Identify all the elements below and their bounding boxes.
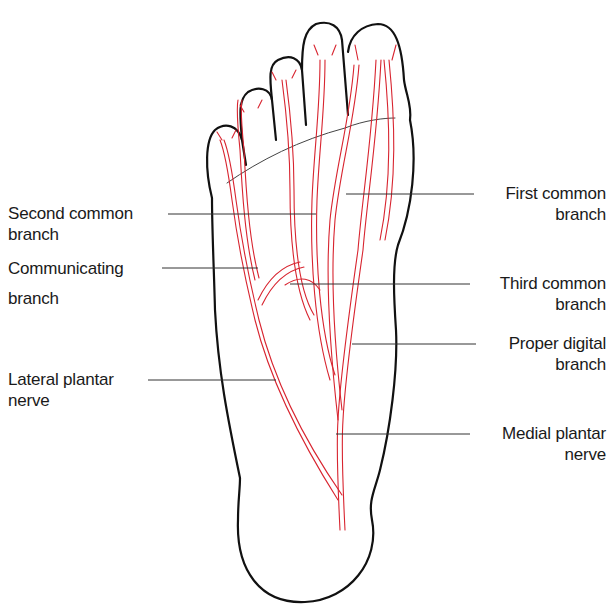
label-line: First common bbox=[505, 183, 606, 204]
label-line: branch bbox=[8, 224, 133, 245]
label-line: Second common bbox=[8, 203, 133, 224]
label-first-common-branch: First common branch bbox=[505, 183, 606, 225]
label-line: nerve bbox=[502, 444, 606, 465]
label-proper-digital-branch: Proper digital branch bbox=[509, 333, 606, 375]
label-line: branch bbox=[8, 288, 124, 309]
label-line: Communicating bbox=[8, 258, 124, 279]
label-third-common-branch: Third common branch bbox=[500, 273, 606, 315]
label-lateral-plantar-nerve: Lateral plantar nerve bbox=[8, 369, 114, 411]
label-line: branch bbox=[500, 294, 606, 315]
label-line: Third common bbox=[500, 273, 606, 294]
label-line: branch bbox=[509, 354, 606, 375]
label-line: nerve bbox=[8, 390, 114, 411]
label-medial-plantar-nerve: Medial plantar nerve bbox=[502, 423, 606, 465]
label-second-common-branch: Second common branch bbox=[8, 203, 133, 245]
label-communicating-branch: Communicating branch bbox=[8, 258, 124, 309]
label-line: Proper digital bbox=[509, 333, 606, 354]
label-line: Lateral plantar bbox=[8, 369, 114, 390]
label-line: branch bbox=[505, 204, 606, 225]
label-line: Medial plantar bbox=[502, 423, 606, 444]
foot-outline bbox=[207, 23, 414, 602]
